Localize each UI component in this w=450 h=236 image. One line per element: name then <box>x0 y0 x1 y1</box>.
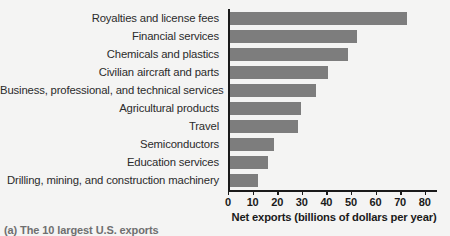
category-label: Chemicals and plastics <box>0 45 224 63</box>
x-axis-title: Net exports (billions of dollars per yea… <box>228 211 440 223</box>
x-tick-label: 0 <box>225 196 231 208</box>
x-tick-mark <box>326 190 327 195</box>
x-tick-mark <box>253 190 254 195</box>
category-label: Civilian aircraft and parts <box>0 63 224 81</box>
bar-row <box>230 117 407 135</box>
bar <box>230 30 358 43</box>
figure-caption: (a) The 10 largest U.S. exports <box>4 224 159 236</box>
bar-row <box>230 81 407 99</box>
x-tick-label: 60 <box>370 196 382 208</box>
bar <box>230 120 299 133</box>
bar-row <box>230 45 407 63</box>
bar <box>230 84 316 97</box>
x-tick-label: 50 <box>345 196 357 208</box>
x-tick-label: 40 <box>320 196 332 208</box>
bar-row <box>230 135 407 153</box>
x-tick-mark <box>400 190 401 195</box>
bar-row <box>230 9 407 27</box>
x-tick-label: 20 <box>271 196 283 208</box>
x-tick-label: 30 <box>296 196 308 208</box>
net-exports-bar-chart: Royalties and license feesFinancial serv… <box>0 0 450 236</box>
bar-row <box>230 27 407 45</box>
bar-row <box>230 171 407 189</box>
x-tick-label: 70 <box>394 196 406 208</box>
bar-series <box>230 9 407 189</box>
category-label: Travel <box>0 117 224 135</box>
x-axis: Net exports (billions of dollars per yea… <box>228 190 440 236</box>
category-label: Drilling, mining, and construction machi… <box>0 171 224 189</box>
bar <box>230 102 301 115</box>
x-tick-mark <box>277 190 278 195</box>
category-label: Semiconductors <box>0 135 224 153</box>
bar <box>230 48 348 61</box>
category-label: Royalties and license fees <box>0 9 224 27</box>
bar <box>230 12 407 25</box>
x-tick-label: 10 <box>247 196 259 208</box>
x-tick-mark <box>302 190 303 195</box>
x-axis-line <box>228 190 437 192</box>
x-tick-mark <box>425 190 426 195</box>
category-label: Agricultural products <box>0 99 224 117</box>
bar <box>230 156 268 169</box>
x-tick-label: 80 <box>419 196 431 208</box>
category-label-column: Royalties and license feesFinancial serv… <box>0 9 224 189</box>
bar <box>230 138 274 151</box>
x-tick-mark <box>228 190 229 195</box>
bar-row <box>230 63 407 81</box>
category-label: Education services <box>0 153 224 171</box>
plot-area <box>228 9 440 189</box>
category-label: Business, professional, and technical se… <box>0 81 224 99</box>
bar-row <box>230 99 407 117</box>
bar <box>230 66 328 79</box>
bar <box>230 174 258 187</box>
x-tick-mark <box>351 190 352 195</box>
x-tick-mark <box>376 190 377 195</box>
bar-row <box>230 153 407 171</box>
category-label: Financial services <box>0 27 224 45</box>
